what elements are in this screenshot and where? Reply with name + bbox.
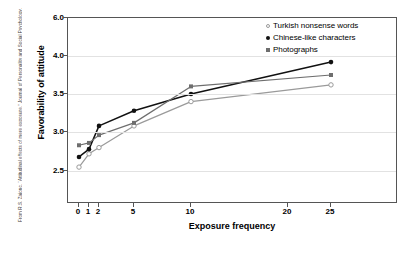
data-point-marker (329, 73, 333, 77)
data-point-marker (87, 147, 92, 152)
figure-container: From R.S. Zajonc, “Attitudinal effects o… (0, 0, 407, 255)
legend-item-label: Chinese-like characters (273, 33, 355, 42)
series-line (79, 85, 331, 167)
legend-item-label: Turkish nonsense words (273, 21, 358, 30)
legend-marker-filled-square-icon (262, 48, 273, 52)
series-line (79, 62, 331, 157)
data-point-marker (132, 121, 136, 125)
chart-legend: Turkish nonsense wordsChinese-like chara… (262, 18, 394, 56)
data-point-marker (97, 145, 101, 149)
legend-swatch-shape (266, 24, 270, 28)
y-tick-mark (63, 55, 67, 56)
data-point-marker (97, 124, 102, 129)
y-tick-mark (63, 170, 67, 171)
y-tick-mark (63, 17, 67, 18)
legend-item: Photographs (262, 44, 394, 55)
x-tick-mark (98, 203, 99, 207)
x-tick-mark (133, 203, 134, 207)
y-tick-mark (63, 93, 67, 94)
y-tick-label: 4.0 (38, 51, 64, 60)
y-tick-label: 2.5 (38, 166, 64, 175)
y-tick-label: 3.0 (38, 127, 64, 136)
data-point-marker (77, 165, 81, 169)
data-point-marker (189, 99, 193, 103)
gridline (68, 132, 396, 133)
x-tick-mark (190, 203, 191, 207)
x-tick-mark (78, 203, 79, 207)
gridline (68, 94, 396, 95)
legend-marker-open-circle-icon (262, 24, 273, 28)
data-point-marker (87, 141, 91, 145)
data-point-marker (132, 108, 137, 113)
y-tick-label: 3.5 (38, 89, 64, 98)
legend-item-label: Photographs (273, 45, 318, 54)
series-line (79, 75, 331, 145)
legend-item: Turkish nonsense words (262, 20, 394, 31)
legend-swatch-shape (266, 48, 270, 52)
legend-marker-filled-circle-icon (262, 36, 273, 40)
data-point-marker (97, 133, 101, 137)
x-tick-mark (88, 203, 89, 207)
gridline (68, 171, 396, 172)
x-tick-label: 25 (318, 207, 342, 216)
data-point-marker (77, 143, 81, 147)
x-tick-label: 10 (178, 207, 202, 216)
x-tick-label: 2 (86, 207, 110, 216)
x-tick-label: 5 (121, 207, 145, 216)
legend-item: Chinese-like characters (262, 32, 394, 43)
y-tick-label: 6.0 (38, 13, 64, 22)
data-point-marker (87, 152, 91, 156)
x-tick-mark (287, 203, 288, 207)
x-tick-mark (330, 203, 331, 207)
gridline (68, 56, 396, 57)
y-axis-tick-labels: 6.04.03.53.02.5 (36, 17, 64, 203)
x-axis-title: Exposure frequency (67, 221, 397, 231)
data-point-marker (329, 83, 333, 87)
x-axis-tick-labels: 0125102025 (67, 207, 397, 219)
data-point-marker (189, 84, 193, 88)
data-point-marker (329, 60, 334, 65)
data-point-marker (77, 155, 82, 160)
legend-swatch-shape (266, 36, 270, 40)
source-attribution: From R.S. Zajonc, “Attitudinal effects o… (0, 0, 22, 222)
x-tick-label: 20 (275, 207, 299, 216)
y-tick-mark (63, 131, 67, 132)
